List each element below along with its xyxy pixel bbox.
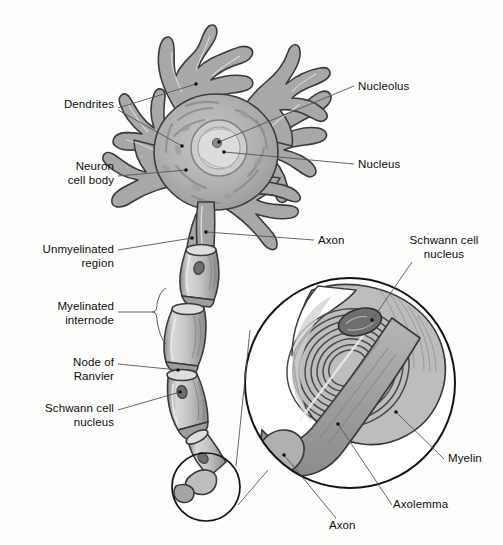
label-unmyelinated-region: Unmyelinated region xyxy=(8,243,114,270)
label-node-of-ranvier: Node of Ranvier xyxy=(18,356,114,383)
axon-hillock xyxy=(196,202,214,246)
myelinated-axon xyxy=(164,245,226,503)
axon-terminal-stub xyxy=(174,470,217,503)
label-dendrites: Dendrites xyxy=(14,98,114,112)
label-schwann-cell-nucleus-left: Schwann cell nucleus xyxy=(6,402,114,429)
internode-3 xyxy=(167,370,208,431)
internode-2 xyxy=(164,304,206,367)
figure-canvas: Dendrites Neuron cell body Unmyelinated … xyxy=(0,0,503,545)
label-schwann-cell-nucleus-right: Schwann cell nucleus xyxy=(390,234,498,261)
inset-schwann-cell xyxy=(245,278,455,488)
label-myelin: Myelin xyxy=(448,452,503,466)
label-axon-upper: Axon xyxy=(318,234,378,248)
soma xyxy=(154,94,278,210)
label-axolemma: Axolemma xyxy=(393,498,478,512)
internode-1 xyxy=(180,245,219,301)
label-nucleus: Nucleus xyxy=(358,158,448,172)
label-myelinated-internode: Myelinated internode xyxy=(12,300,114,327)
label-axon-lower: Axon xyxy=(329,519,384,533)
label-nucleolus: Nucleolus xyxy=(358,80,458,94)
label-neuron-cell-body: Neuron cell body xyxy=(12,160,114,187)
